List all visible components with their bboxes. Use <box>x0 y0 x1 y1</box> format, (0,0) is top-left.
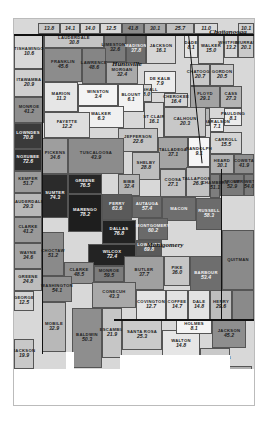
county-region <box>14 171 42 193</box>
city-label: Huntsville <box>112 60 142 68</box>
county-region <box>188 290 210 320</box>
county-region <box>198 34 224 64</box>
county-region <box>210 132 242 154</box>
county-region <box>68 174 102 194</box>
county-region <box>212 320 246 348</box>
county-region <box>44 112 90 138</box>
state-line-west <box>42 34 43 354</box>
county-region <box>102 194 132 220</box>
county-region <box>14 97 44 123</box>
county-region <box>102 308 122 358</box>
state-line-chattahoochee <box>221 169 222 319</box>
county-region <box>118 128 158 152</box>
county-region <box>14 217 42 243</box>
county-region <box>38 23 60 34</box>
county-region <box>44 82 78 112</box>
county-region <box>42 138 68 174</box>
city-label: Chattanooga <box>209 28 246 36</box>
county-region <box>162 330 200 358</box>
county-region <box>102 220 136 244</box>
alabama-county-map: 13.814.114.012.541.830.125.711.010.1TISH… <box>13 18 255 406</box>
county-region <box>224 34 238 58</box>
county-region <box>144 23 166 34</box>
county-region <box>244 174 254 196</box>
county-region <box>42 302 66 352</box>
county-region <box>222 230 254 290</box>
county-region <box>60 23 80 34</box>
county-region <box>104 34 126 62</box>
county-region <box>78 84 118 106</box>
county-region <box>138 218 168 240</box>
county-region <box>44 34 104 48</box>
county-region <box>80 23 100 34</box>
water-area <box>14 369 254 405</box>
county-region <box>14 269 42 291</box>
county-region <box>14 69 44 97</box>
county-region <box>72 308 102 368</box>
county-region <box>14 193 42 217</box>
state-line-south <box>114 319 254 321</box>
county-region <box>164 256 190 286</box>
county-region <box>68 194 102 232</box>
water-area <box>120 355 230 369</box>
county-region <box>14 149 42 171</box>
county-region <box>210 118 224 132</box>
county-region <box>176 320 212 334</box>
county-region <box>166 290 188 320</box>
county-region <box>220 86 242 108</box>
county-region <box>122 320 162 350</box>
county-region <box>232 290 254 320</box>
county-region <box>136 290 166 320</box>
county-region <box>158 137 188 169</box>
county-region <box>14 34 44 69</box>
county-region <box>42 174 68 218</box>
county-region <box>122 23 144 34</box>
county-region <box>14 123 42 149</box>
county-region <box>118 174 140 196</box>
county-region <box>68 138 124 174</box>
county-region <box>234 154 254 174</box>
county-region <box>238 34 254 58</box>
county-region <box>186 167 210 197</box>
county-region <box>146 34 176 64</box>
county-region <box>166 23 194 34</box>
county-region <box>42 276 72 302</box>
county-region <box>94 266 124 282</box>
county-region <box>14 243 42 269</box>
county-region <box>82 48 106 84</box>
city-label: Montgomery <box>147 241 184 249</box>
county-region <box>14 339 34 369</box>
county-region <box>210 64 234 86</box>
county-region <box>132 196 162 218</box>
county-region <box>196 198 222 230</box>
county-region <box>160 169 186 197</box>
county-region <box>14 291 34 311</box>
county-region <box>224 108 242 126</box>
county-region <box>210 174 220 198</box>
county-region <box>100 23 122 34</box>
county-region <box>42 232 64 276</box>
county-region <box>220 174 244 196</box>
county-region <box>44 48 82 82</box>
county-region <box>164 93 188 107</box>
county-region <box>92 282 136 308</box>
